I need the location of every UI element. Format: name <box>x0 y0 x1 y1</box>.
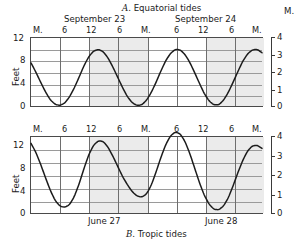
meters-tick <box>271 213 275 214</box>
panel-b-title: B. Tropic tides <box>126 230 187 239</box>
panel-a-time-tick-7: 6 <box>229 26 234 34</box>
panel-b-meters-label-1: 1 <box>277 191 282 200</box>
panel-a-meters-label-3: 3 <box>277 51 282 60</box>
panel-a-meters-label-4: 4 <box>277 33 282 42</box>
panel-a-time-tick-5: 6 <box>174 26 179 34</box>
panel-b-time-tick-2: 12 <box>86 125 96 133</box>
panel-a-time-tick-8: M. <box>252 26 262 34</box>
meters-tick <box>271 195 275 196</box>
panel-a-day-label-2: September 24 <box>175 15 236 24</box>
panel-a-time-tick-4: M. <box>141 26 151 34</box>
panel-a-day-label-1: September 23 <box>64 15 125 24</box>
meters-tick <box>271 37 275 38</box>
panel-a-time-tick-6: 12 <box>198 26 208 34</box>
panel-a-letter: A. <box>122 3 131 13</box>
panel-a-time-tick-0: M. <box>33 26 43 34</box>
panel-b-ytick-8: 8 <box>20 164 25 173</box>
panel-a-ytick-0: 0 <box>20 102 25 111</box>
meters-tick <box>271 106 275 107</box>
panel-b-time-tick-7: 6 <box>229 125 234 133</box>
meters-tick <box>271 55 275 56</box>
panel-b-letter: B. <box>126 229 135 239</box>
panel-a-time-tick-2: 12 <box>86 26 96 34</box>
panel-b-time-tick-3: 6 <box>117 125 122 133</box>
panel-b-day-label-2: June 28 <box>205 217 237 226</box>
panel-a-ytick-12: 12 <box>13 34 24 43</box>
meters-tick <box>271 175 275 176</box>
panel-a-meters-label-2: 2 <box>277 68 282 77</box>
panel-a-title: A. Equatorial tides <box>122 4 201 13</box>
panel-a-time-tick-3: 6 <box>117 26 122 34</box>
panel-b-meters-label-3: 3 <box>277 152 282 161</box>
equatorial-tide-plot <box>30 37 263 107</box>
meters-tick <box>271 90 275 91</box>
panel-a-meters-label-0: 0 <box>277 102 282 111</box>
panel-a-yaxis-label: Feet <box>12 68 21 86</box>
panel-a-time-tick-1: 6 <box>62 26 67 34</box>
panel-a-ytick-8: 8 <box>20 56 25 65</box>
meters-tick <box>271 72 275 73</box>
panel-b-meters-label-4: 4 <box>277 132 282 141</box>
panel-b-time-tick-1: 6 <box>62 125 67 133</box>
meters-tick <box>271 136 275 137</box>
tropic-tide-plot <box>30 136 263 214</box>
panel-b-time-tick-6: 12 <box>198 125 208 133</box>
panel-b-ytick-12: 12 <box>13 141 24 150</box>
panel-b-ytick-0: 0 <box>20 209 25 218</box>
panel-b-meters-label-0: 0 <box>277 209 282 218</box>
tropic-tide-curve <box>31 137 262 213</box>
panel-b-meters-label-2: 2 <box>277 171 282 180</box>
panel-a-title-text: Equatorial tides <box>134 3 202 13</box>
panel-b-time-tick-4: M. <box>141 125 151 133</box>
tide-curves-figure: A. Equatorial tides September 23 Septemb… <box>0 0 308 243</box>
panel-b-title-text: Tropic tides <box>138 229 187 239</box>
panel-b-time-tick-0: M. <box>33 125 43 133</box>
panel-b-day-label-1: June 27 <box>88 217 120 226</box>
panel-b-time-tick-8: M. <box>252 125 262 133</box>
panel-a-meters-label-1: 1 <box>277 86 282 95</box>
meters-tick <box>271 156 275 157</box>
panel-b-yaxis-label: Feet <box>12 175 21 193</box>
equatorial-tide-curve <box>31 38 262 106</box>
meters-unit-header: M. <box>284 7 294 16</box>
